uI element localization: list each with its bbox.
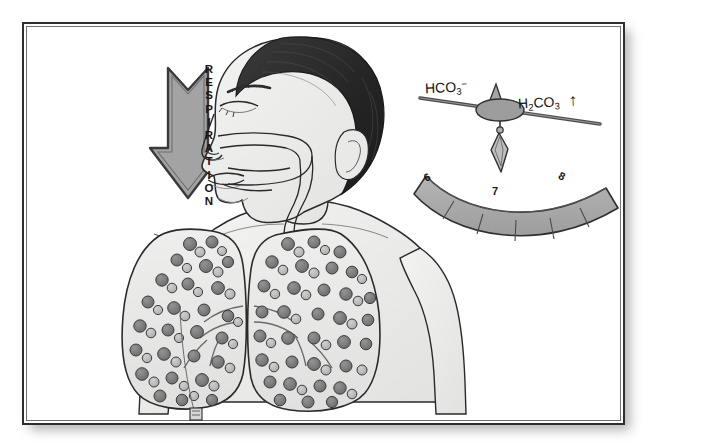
respiration-letter: O	[205, 182, 214, 195]
ph-scale-arc	[414, 176, 618, 241]
respiration-letter: R	[205, 63, 213, 76]
respiration-letter: I	[207, 169, 210, 182]
carbonic-acid-co: CO	[533, 94, 555, 111]
respiration-letter: S	[205, 89, 213, 102]
lung-left	[122, 229, 246, 409]
lung-right	[248, 229, 380, 411]
respiration-letter: E	[205, 76, 213, 89]
head-profile	[202, 37, 384, 223]
respiration-letter: I	[207, 116, 210, 129]
bicarbonate-charge: −	[461, 78, 467, 89]
respiration-letter: N	[205, 195, 213, 208]
bicarbonate-formula-base: HCO	[425, 79, 457, 96]
respiration-letter: R	[205, 129, 213, 142]
ph-tick-7: 7	[492, 185, 498, 197]
respiration-label: R E S P I R A T I O N	[198, 63, 220, 208]
carbonic-acid-subscript-2: 3	[554, 100, 560, 111]
carbonic-acid-label: H2CO3↑	[518, 90, 578, 113]
respiration-letter: T	[205, 155, 212, 168]
carbonic-acid-h: H	[518, 95, 529, 112]
respiration-letter: P	[205, 103, 213, 116]
up-arrow-icon: ↑	[568, 90, 577, 109]
respiration-letter: A	[205, 142, 213, 155]
illustration-artwork	[22, 22, 625, 425]
figure-canvas: R E S P I R A T I O N HCO3− H2CO3↑ 6 7 8	[0, 0, 719, 443]
bicarbonate-label: HCO3−	[425, 78, 468, 98]
